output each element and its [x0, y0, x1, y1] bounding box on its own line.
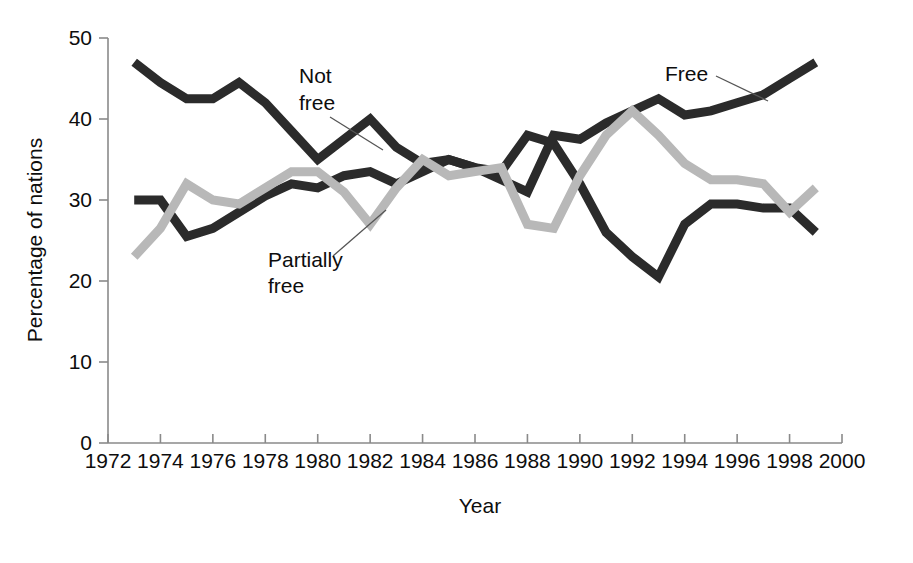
x-tick-label: 1978: [242, 449, 289, 472]
annotation-free-line1: Free: [665, 62, 708, 85]
x-tick-label: 1982: [347, 449, 394, 472]
x-tick-label: 2000: [819, 449, 866, 472]
annotation-not-free-line1: Not: [299, 64, 332, 87]
x-tick-label: 1988: [504, 449, 551, 472]
y-axis-title: Percentage of nations: [23, 138, 46, 342]
annotation-not-free-line2: free: [299, 91, 335, 114]
line-chart: 01020304050 1972197419761978198019821984…: [0, 0, 913, 563]
y-tick-label: 30: [69, 188, 92, 211]
x-tick-label: 1994: [661, 449, 708, 472]
chart-container: 01020304050 1972197419761978198019821984…: [0, 0, 913, 563]
x-tick-label: 1984: [399, 449, 446, 472]
x-tick-label: 1976: [189, 449, 236, 472]
y-tick-label: 20: [69, 269, 92, 292]
x-axis-ticks: 1972197419761978198019821984198619881990…: [85, 434, 866, 472]
y-axis-ticks: 01020304050: [69, 26, 108, 454]
y-tick-label: 50: [69, 26, 92, 49]
x-tick-label: 1998: [766, 449, 813, 472]
x-tick-label: 1980: [294, 449, 341, 472]
y-tick-label: 40: [69, 107, 92, 130]
annotation-partially-free-line2: free: [268, 274, 304, 297]
annotation-partially-free-line1: Partially: [268, 248, 343, 271]
x-tick-label: 1974: [137, 449, 184, 472]
data-series-group: [134, 62, 816, 277]
x-tick-label: 1986: [452, 449, 499, 472]
y-tick-label: 10: [69, 350, 92, 373]
x-tick-label: 1992: [609, 449, 656, 472]
x-tick-label: 1996: [714, 449, 761, 472]
x-tick-label: 1972: [85, 449, 132, 472]
x-tick-label: 1990: [556, 449, 603, 472]
x-axis-title: Year: [459, 494, 501, 517]
series-line-partially-free: [134, 111, 816, 257]
